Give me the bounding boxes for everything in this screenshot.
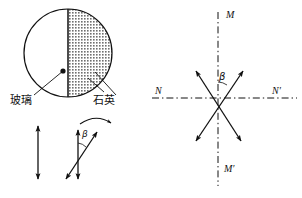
label-beta-right: β	[219, 72, 225, 82]
glass-leader-dot	[60, 68, 65, 73]
label-quartz: 石英	[93, 95, 115, 106]
glass-half-fill	[24, 9, 68, 97]
axis-label-M: M	[226, 10, 234, 20]
figure-vector-canvas	[0, 0, 302, 198]
half-glass-half-quartz-disc	[24, 9, 112, 97]
beta-angle-arc	[218, 82, 227, 85]
pair-tilted-double-arrow	[66, 132, 97, 179]
optics-figure: 玻璃 石英 β M M′ N N′ β	[0, 0, 302, 198]
pair-angle-arc	[78, 143, 86, 147]
axis-label-N-prime: N′	[272, 86, 281, 96]
label-beta-left: β	[82, 130, 88, 139]
clockwise-rotation-arrow	[80, 118, 111, 124]
left-vector-diagram	[38, 118, 111, 179]
label-glass: 玻璃	[10, 95, 32, 106]
axis-label-N: N	[155, 86, 162, 96]
axis-label-M-prime: M′	[224, 164, 235, 174]
